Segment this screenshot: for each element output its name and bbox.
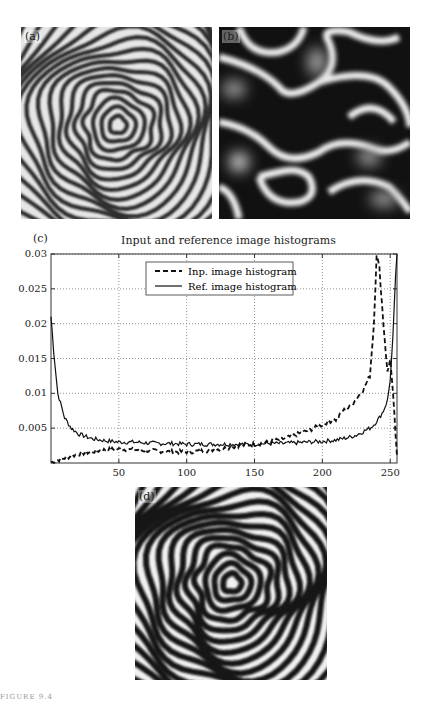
svg-text:0.03: 0.03 xyxy=(25,248,47,259)
legend: Inp. image histogram Ref. image histogra… xyxy=(146,262,297,295)
svg-text:0.02: 0.02 xyxy=(25,318,47,329)
svg-text:100: 100 xyxy=(177,467,196,478)
svg-text:0.01: 0.01 xyxy=(25,387,47,398)
panel-a-input-fringe-image: (a) xyxy=(21,27,212,219)
panel-b-reference-image: (b) xyxy=(219,27,410,219)
svg-text:200: 200 xyxy=(313,467,332,478)
panel-label: (b) xyxy=(222,30,240,43)
svg-text:250: 250 xyxy=(381,467,400,478)
svg-text:0.025: 0.025 xyxy=(18,283,47,294)
svg-text:150: 150 xyxy=(245,467,264,478)
panel-label: (d) xyxy=(138,490,156,503)
svg-text:0.015: 0.015 xyxy=(18,353,47,364)
figure-caption-fragment: FIGURE 9.4 xyxy=(0,693,53,701)
reference-blob-image xyxy=(219,27,410,219)
matched-fringe-rings-image xyxy=(135,487,327,680)
panel-label: (a) xyxy=(24,30,41,43)
fringe-rings-image xyxy=(21,27,212,219)
legend-entry-ref: Ref. image histogram xyxy=(188,281,297,292)
histogram-chart: 0.0050.010.0150.020.0250.03 501001502002… xyxy=(0,240,427,480)
panel-d-output-fringe-image: (d) xyxy=(135,487,327,680)
legend-entry-inp: Inp. image histogram xyxy=(188,266,297,277)
svg-text:50: 50 xyxy=(112,467,125,478)
svg-text:0.005: 0.005 xyxy=(18,422,47,433)
